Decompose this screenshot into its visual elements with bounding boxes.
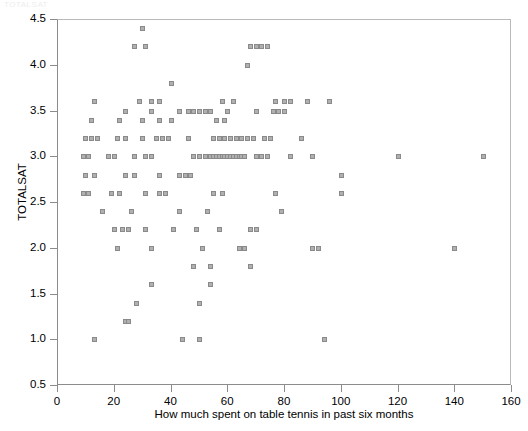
data-point	[132, 154, 137, 159]
data-point	[316, 246, 321, 251]
data-point	[231, 99, 236, 104]
y-axis-title: TOTALSAT	[16, 132, 28, 252]
y-tick	[50, 339, 57, 340]
data-point	[149, 154, 154, 159]
data-point	[112, 227, 117, 232]
data-point	[157, 99, 162, 104]
data-point	[288, 154, 293, 159]
title-remnant: TOTALSAT	[4, 0, 48, 7]
scatter-plot-figure: TOTALSAT 0.51.01.52.02.53.03.54.04.5 020…	[0, 0, 528, 431]
data-point	[220, 99, 225, 104]
data-point	[143, 191, 148, 196]
data-point	[132, 44, 137, 49]
x-tick-label: 0	[54, 395, 60, 407]
data-point	[237, 246, 242, 251]
data-point	[86, 191, 91, 196]
y-tick	[50, 202, 57, 203]
data-point	[129, 209, 134, 214]
data-point	[177, 209, 182, 214]
data-point	[140, 136, 145, 141]
data-point	[251, 136, 256, 141]
x-tick-label: 160	[501, 395, 520, 407]
data-point	[339, 191, 344, 196]
data-point	[86, 154, 91, 159]
y-tick	[50, 111, 57, 112]
data-point	[288, 99, 293, 104]
data-point	[157, 118, 162, 123]
data-point	[339, 173, 344, 178]
data-point	[259, 154, 264, 159]
data-point	[140, 26, 145, 31]
data-point	[282, 99, 287, 104]
data-point	[265, 44, 270, 49]
data-point	[254, 44, 259, 49]
data-point	[211, 136, 216, 141]
data-point	[137, 99, 142, 104]
y-tick-label: 4.5	[6, 13, 46, 23]
data-point	[305, 99, 310, 104]
data-point	[83, 173, 88, 178]
data-point	[149, 246, 154, 251]
data-point	[310, 246, 315, 251]
data-point	[248, 264, 253, 269]
data-point	[169, 118, 174, 123]
data-point	[149, 109, 154, 114]
data-point	[327, 99, 332, 104]
y-tick	[50, 385, 57, 386]
data-point	[273, 191, 278, 196]
y-tick	[50, 248, 57, 249]
data-point	[191, 109, 196, 114]
data-point	[211, 191, 216, 196]
data-point	[180, 337, 185, 342]
data-point	[186, 136, 191, 141]
data-point	[160, 136, 165, 141]
data-point	[220, 191, 225, 196]
x-tick-label: 120	[388, 395, 407, 407]
data-point	[81, 154, 86, 159]
x-tick-label: 60	[221, 395, 234, 407]
plot-frame	[57, 19, 511, 385]
data-point	[149, 99, 154, 104]
data-point	[197, 154, 202, 159]
data-point	[217, 227, 222, 232]
data-point	[100, 209, 105, 214]
x-tick-label: 80	[278, 395, 291, 407]
data-point	[109, 191, 114, 196]
data-point	[134, 301, 139, 306]
data-point	[115, 246, 120, 251]
data-point	[123, 109, 128, 114]
data-point	[112, 154, 117, 159]
data-point	[154, 136, 159, 141]
y-tick-label: 4.0	[6, 59, 46, 69]
data-point	[95, 136, 100, 141]
x-axis-title: How much spent on table tennis in past s…	[57, 408, 511, 420]
x-tick-label: 20	[107, 395, 120, 407]
data-point	[205, 209, 210, 214]
data-point	[92, 173, 97, 178]
data-point	[120, 227, 125, 232]
data-point	[203, 154, 208, 159]
data-point	[248, 44, 253, 49]
data-point	[92, 337, 97, 342]
data-point	[117, 118, 122, 123]
data-point	[92, 99, 97, 104]
data-point	[273, 99, 278, 104]
data-point	[200, 246, 205, 251]
data-point	[310, 154, 315, 159]
data-point	[228, 136, 233, 141]
data-point	[197, 337, 202, 342]
data-point	[191, 264, 196, 269]
data-point	[157, 191, 162, 196]
data-point	[225, 109, 230, 114]
data-point	[143, 44, 148, 49]
data-point	[299, 136, 304, 141]
data-point	[89, 136, 94, 141]
data-point	[276, 109, 281, 114]
data-point	[242, 246, 247, 251]
data-point	[171, 227, 176, 232]
data-point	[245, 136, 250, 141]
x-tick-label: 100	[331, 395, 350, 407]
data-point	[123, 173, 128, 178]
data-point	[177, 109, 182, 114]
y-tick-label: 1.0	[6, 333, 46, 343]
